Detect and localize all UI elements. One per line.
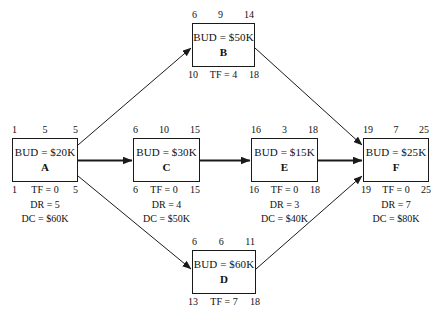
node-b-letter: B	[220, 45, 227, 59]
node-d-late-finish: 18	[250, 296, 260, 308]
node-c-early-finish: 15	[190, 124, 200, 136]
node-c-late-finish: 15	[190, 184, 200, 196]
node-b-box[interactable]: BUD = $50K B	[192, 23, 255, 67]
node-c-early-start: 6	[133, 124, 138, 136]
node-b-late-start: 10	[188, 69, 198, 81]
node-f-dc: DC = $80K	[353, 212, 439, 225]
node-c-total-float: TF = 0	[150, 184, 177, 196]
node-a-letter: A	[41, 160, 49, 174]
node-f-early-start: 19	[363, 124, 373, 136]
node-a-early-finish: 5	[73, 124, 78, 136]
node-e-late-start: 16	[249, 184, 259, 196]
node-c-letter: C	[163, 160, 171, 174]
node-b-budget: BUD = $50K	[193, 31, 253, 44]
node-f-box[interactable]: BUD = $25K F	[363, 138, 429, 182]
node-f-dr: DR = 7	[363, 198, 429, 211]
node-b-top-row: 6 9 14	[192, 9, 254, 21]
node-b-early-finish: 14	[244, 9, 254, 21]
node-e-bottom-row: 16 TF = 0 18	[249, 184, 320, 196]
node-c-dr: DR = 4	[133, 198, 200, 211]
node-a-late-finish: 5	[73, 184, 78, 196]
node-f-budget: BUD = $25K	[366, 146, 426, 159]
node-f-duration: 7	[394, 124, 399, 136]
node-e-letter: E	[281, 160, 288, 174]
node-d-bottom-row: 13 TF = 7 18	[188, 296, 260, 308]
node-f-total-float: TF = 0	[382, 184, 409, 196]
network-diagram-canvas: 1 5 5 BUD = $20K A 1 TF = 0 5 DR = 5 DC …	[0, 0, 441, 324]
node-b-late-finish: 18	[249, 69, 259, 81]
node-e-late-finish: 18	[310, 184, 320, 196]
node-c-duration: 10	[159, 124, 169, 136]
node-c-box[interactable]: BUD = $30K C	[133, 138, 200, 182]
node-b-bottom-row: 10 TF = 4 18	[188, 69, 259, 81]
node-b-duration: 9	[218, 9, 223, 21]
node-d-letter: D	[220, 272, 228, 286]
node-a-late-start: 1	[12, 184, 17, 196]
node-f-bottom-row: 19 TF = 0 25	[361, 184, 431, 196]
node-e-budget: BUD = $15K	[254, 146, 314, 159]
node-f-late-start: 19	[361, 184, 371, 196]
node-a-duration: 5	[43, 124, 48, 136]
node-a-budget: BUD = $20K	[15, 146, 75, 159]
node-a-early-start: 1	[12, 124, 17, 136]
node-c-bottom-row: 6 TF = 0 15	[133, 184, 200, 196]
node-f-top-row: 19 7 25	[363, 124, 429, 136]
node-d-box[interactable]: BUD = $60K D	[192, 250, 256, 294]
node-a-dr: DR = 5	[12, 198, 78, 211]
node-c-late-start: 6	[133, 184, 138, 196]
node-e-dr: DR = 3	[251, 198, 318, 211]
node-e-early-finish: 18	[308, 124, 318, 136]
node-e-top-row: 16 3 18	[251, 124, 318, 136]
node-d-top-row: 6 6 11	[192, 236, 255, 248]
node-c-top-row: 6 10 15	[133, 124, 200, 136]
node-b-total-float: TF = 4	[210, 69, 237, 81]
node-a-box[interactable]: BUD = $20K A	[12, 138, 78, 182]
node-e-dc: DC = $40K	[241, 212, 328, 225]
node-e-box[interactable]: BUD = $15K E	[251, 138, 318, 182]
node-d-early-finish: 11	[245, 236, 255, 248]
node-e-early-start: 16	[251, 124, 261, 136]
node-f-early-finish: 25	[419, 124, 429, 136]
node-a-total-float: TF = 0	[31, 184, 58, 196]
node-a-dc: DC = $60K	[2, 212, 88, 225]
node-a-top-row: 1 5 5	[12, 124, 78, 136]
node-d-duration: 6	[219, 236, 224, 248]
node-d-early-start: 6	[192, 236, 197, 248]
node-f-letter: F	[393, 160, 400, 174]
node-e-duration: 3	[282, 124, 287, 136]
node-a-bottom-row: 1 TF = 0 5	[12, 184, 78, 196]
node-e-total-float: TF = 0	[271, 184, 298, 196]
node-c-dc: DC = $50K	[123, 212, 210, 225]
node-d-budget: BUD = $60K	[194, 258, 254, 271]
node-f-late-finish: 25	[421, 184, 431, 196]
node-d-total-float: TF = 7	[210, 296, 237, 308]
node-b-early-start: 6	[192, 9, 197, 21]
node-d-late-start: 13	[188, 296, 198, 308]
node-c-budget: BUD = $30K	[136, 146, 196, 159]
